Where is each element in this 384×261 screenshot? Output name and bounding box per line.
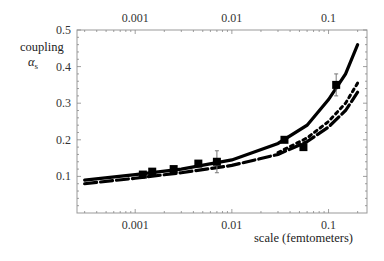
data-marker (148, 168, 156, 176)
y-tick-label: 0.4 (56, 60, 71, 74)
chart: 0.0010.0010.010.010.10.10.10.20.30.40.5 … (0, 0, 384, 261)
top-x-tick-label: 0.1 (321, 11, 336, 25)
plot-frame (77, 30, 367, 213)
data-curves (85, 45, 358, 184)
y-tick-label: 0.5 (56, 23, 71, 37)
curve-dotted (278, 83, 358, 153)
curve-dashed (85, 92, 358, 184)
data-marker (139, 171, 147, 179)
data-marker (299, 143, 307, 151)
curve-solid (85, 45, 358, 180)
y-tick-label: 0.3 (56, 96, 71, 110)
y-axis-title: coupling (20, 40, 64, 54)
x-tick-label: 0.1 (321, 218, 336, 232)
y-tick-label: 0.1 (56, 169, 71, 183)
top-x-tick-label: 0.001 (122, 11, 149, 25)
x-tick-label: 0.001 (122, 218, 149, 232)
data-marker (213, 158, 221, 166)
x-axis-title: scale (femtometers) (254, 231, 353, 245)
axis-labels: 0.0010.0010.010.010.10.10.10.20.30.40.5 (56, 11, 336, 232)
data-marker (332, 81, 340, 89)
axis-ticks (77, 30, 367, 213)
data-marker (280, 136, 288, 144)
top-x-tick-label: 0.01 (221, 11, 242, 25)
y-axis-symbol: αs (28, 55, 39, 71)
y-tick-label: 0.2 (56, 133, 71, 147)
data-marker (170, 165, 178, 173)
x-tick-label: 0.01 (221, 218, 242, 232)
data-marker (194, 160, 202, 168)
